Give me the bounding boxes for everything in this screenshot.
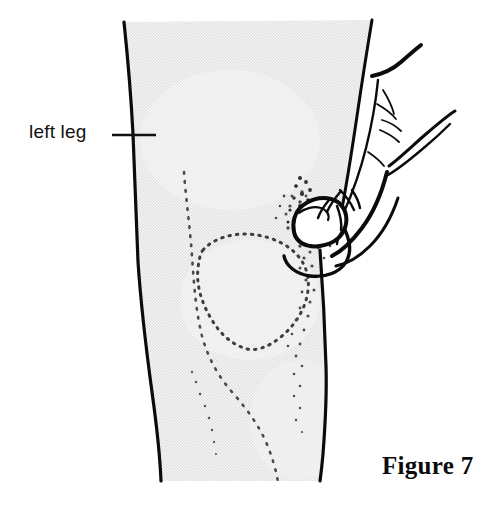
second-finger-bottom: [386, 124, 450, 176]
figure-container: left leg Figure 7: [0, 0, 501, 506]
index-finger-top: [372, 45, 421, 76]
annotation-label-left-leg: left leg: [29, 122, 87, 141]
anatomical-illustration: [0, 0, 501, 506]
second-finger-top: [389, 111, 455, 166]
figure-caption: Figure 7: [382, 453, 474, 478]
hand-crease-lines: [368, 90, 401, 166]
